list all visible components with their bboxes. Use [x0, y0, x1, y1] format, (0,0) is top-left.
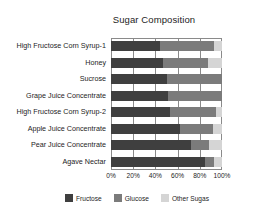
category-label: Grape Juice Concentrate [0, 91, 106, 101]
legend-swatch-icon [114, 194, 122, 202]
legend-swatch-icon [161, 194, 169, 202]
legend-item[interactable]: Fructose [65, 194, 102, 202]
x-tick-label: 40% [149, 172, 162, 179]
category-label: Pear Juice Concentrate [0, 140, 106, 150]
legend-item[interactable]: Other Sugas [161, 194, 209, 202]
bar-segment [213, 124, 222, 134]
bar-row [111, 157, 222, 167]
category-label: Sucrose [0, 74, 106, 84]
chart-title: Sugar Composition [0, 14, 264, 25]
bar-segment [163, 58, 207, 68]
bar-row [111, 74, 222, 84]
bar-segment [111, 107, 170, 117]
bar-segment [205, 157, 214, 167]
bar-segment [214, 41, 222, 51]
bar-row [111, 107, 222, 117]
x-tick-label: 60% [171, 172, 184, 179]
x-tick-label: 100% [214, 172, 231, 179]
bar-rows [111, 38, 222, 170]
bar-segment [160, 41, 214, 51]
legend-label: Glucose [125, 195, 149, 202]
category-axis-labels: High Fructose Corn Syrup-1HoneySucroseGr… [0, 38, 106, 170]
bar-segment [170, 107, 217, 117]
chart-legend: FructoseGlucoseOther Sugas [0, 194, 264, 202]
bar-segment [167, 74, 223, 84]
bar-segment [111, 58, 163, 68]
category-label: Apple Juice Concentrate [0, 124, 106, 134]
bar-segment [111, 74, 167, 84]
bar-segment [111, 157, 205, 167]
legend-swatch-icon [65, 194, 73, 202]
bar-segment [111, 124, 180, 134]
bar-segment [111, 41, 160, 51]
category-label: High Fructose Corn Syrup-1 [0, 41, 106, 51]
x-tick-label: 80% [193, 172, 206, 179]
legend-label: Other Sugas [172, 195, 209, 202]
bar-row [111, 41, 222, 51]
category-label: High Fructose Corn Syrup-2 [0, 107, 106, 117]
bar-segment [191, 140, 209, 150]
legend-label: Fructose [76, 195, 102, 202]
plot-area [111, 38, 222, 170]
legend-item[interactable]: Glucose [114, 194, 149, 202]
bar-segment [180, 124, 213, 134]
x-axis-tick-labels: 0%20%40%60%80%100% [111, 172, 222, 184]
sugar-composition-chart: Sugar Composition High Fructose Corn Syr… [0, 0, 264, 222]
bar-segment [216, 107, 222, 117]
category-label: Agave Nectar [0, 157, 106, 167]
x-tick-label: 0% [106, 172, 116, 179]
bar-segment [111, 91, 168, 101]
bar-row [111, 58, 222, 68]
bar-segment [209, 140, 222, 150]
bar-segment [111, 140, 191, 150]
bar-row [111, 124, 222, 134]
bar-segment [168, 91, 222, 101]
bar-row [111, 91, 222, 101]
x-tick-label: 20% [127, 172, 140, 179]
category-label: Honey [0, 58, 106, 68]
bar-row [111, 140, 222, 150]
bar-segment [214, 157, 222, 167]
bar-segment [208, 58, 222, 68]
